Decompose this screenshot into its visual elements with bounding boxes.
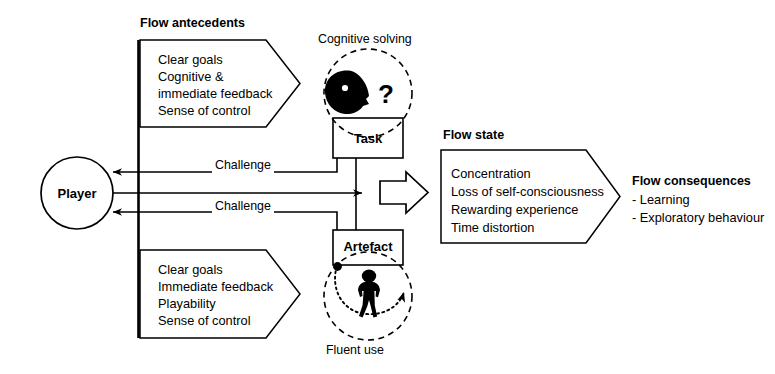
flow-block-arrow-icon bbox=[380, 172, 428, 213]
artefact-label: Artefact bbox=[333, 239, 403, 255]
flow-state-line-4: Time distortion bbox=[451, 220, 534, 236]
player-label: Player bbox=[42, 186, 112, 202]
challenge-bottom-label: Challenge bbox=[212, 199, 274, 215]
diagram-canvas: Flow antecedents Clear goals Cognitive &… bbox=[0, 0, 775, 374]
fluent-use-caption: Fluent use bbox=[326, 343, 384, 359]
flow-state-title: Flow state bbox=[443, 128, 504, 144]
antecedents-bottom-line-3: Playability bbox=[158, 296, 216, 312]
antecedents-bottom-line-2: Immediate feedback bbox=[158, 279, 273, 295]
flow-state-line-1: Concentration bbox=[451, 166, 531, 182]
antecedents-top-line-1: Clear goals bbox=[158, 52, 223, 68]
antecedents-title: Flow antecedents bbox=[140, 16, 245, 32]
challenge-bottom-line bbox=[113, 212, 337, 230]
antecedents-bottom-line-4: Sense of control bbox=[158, 313, 250, 329]
challenge-top-label: Challenge bbox=[212, 158, 274, 174]
antecedents-top-line-4: Sense of control bbox=[158, 103, 250, 119]
antecedents-top-line-2: Cognitive & bbox=[158, 69, 223, 85]
flow-state-line-3: Rewarding experience bbox=[451, 202, 578, 218]
flow-state-line-2: Loss of self-consciousness bbox=[451, 184, 604, 200]
consequences-item-1: - Learning bbox=[632, 192, 690, 208]
path-origin-dot-icon bbox=[333, 262, 342, 271]
consequences-title: Flow consequences bbox=[632, 174, 751, 190]
antecedents-top-line-3: immediate feedback bbox=[158, 86, 273, 102]
person-silhouette-icon bbox=[358, 270, 380, 318]
antecedents-bottom-line-1: Clear goals bbox=[158, 262, 223, 278]
head-silhouette-icon bbox=[325, 71, 369, 114]
head-eye-icon bbox=[342, 85, 348, 91]
cognitive-solving-caption: Cognitive solving bbox=[318, 32, 412, 48]
consequences-item-2: - Exploratory behaviour bbox=[632, 210, 764, 226]
task-label: Task bbox=[333, 131, 403, 147]
question-mark-icon: ? bbox=[378, 78, 394, 111]
